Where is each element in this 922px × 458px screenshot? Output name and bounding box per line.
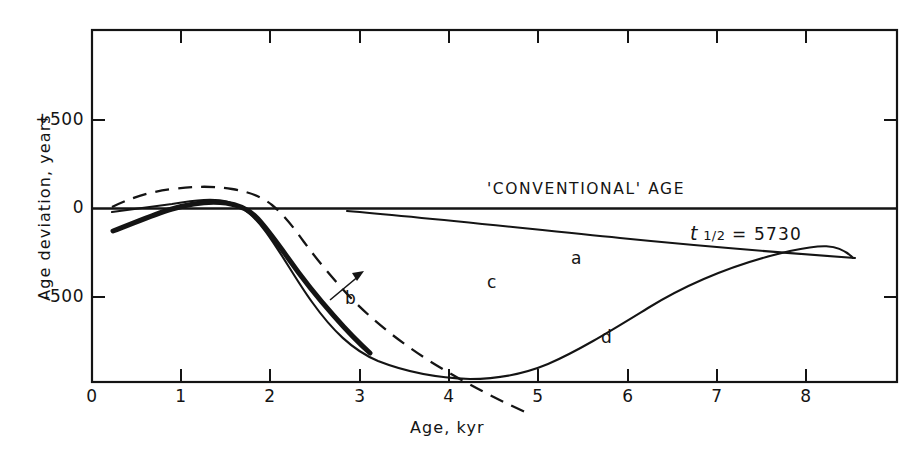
xtick-label-8: 8 [788, 386, 824, 406]
xtick-label-5: 5 [520, 386, 556, 406]
xtick-label-2: 2 [252, 386, 288, 406]
xtick-label-6: 6 [610, 386, 646, 406]
y-axis-title-wrap: Age deviation, years [35, 78, 54, 338]
curve-label-b: b [345, 288, 356, 308]
xtick-label-3: 3 [342, 386, 378, 406]
x-ticks-bottom [181, 369, 806, 382]
curve-label-a: a [571, 248, 582, 268]
curve-label-d: d [601, 327, 612, 347]
plot-frame [92, 30, 897, 382]
half-life-label: t 1/2 = 5730 [690, 222, 802, 244]
xtick-label-4: 4 [431, 386, 467, 406]
y-axis-title: Age deviation, years [35, 114, 54, 301]
chart-figure: 0 1 2 3 4 5 6 7 8 +500 0 -500 Age deviat… [0, 0, 922, 458]
conventional-age-label: 'CONVENTIONAL' AGE [487, 180, 685, 198]
xtick-label-0: 0 [74, 386, 110, 406]
x-ticks-top [181, 30, 806, 43]
xtick-label-7: 7 [699, 386, 735, 406]
x-axis-title: Age, kyr [410, 418, 485, 437]
curve-label-c: c [487, 272, 497, 292]
xtick-label-1: 1 [163, 386, 199, 406]
